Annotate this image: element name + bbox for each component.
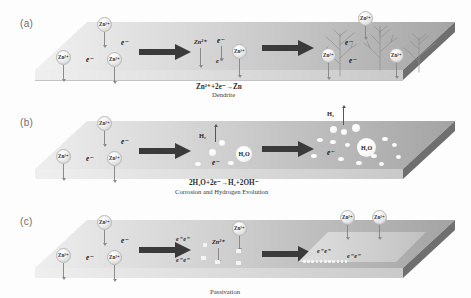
hydrogen-bubble xyxy=(209,149,216,156)
electron-label: e⁻ xyxy=(121,137,128,146)
hydrogen-bubble xyxy=(317,138,323,142)
hydrogen-bubble xyxy=(195,162,201,166)
panel-a-label: (a) xyxy=(20,18,33,29)
ion-direction-arrow xyxy=(114,265,115,279)
zn-ion: Zn²⁺ xyxy=(358,11,373,26)
zn-ion: Zn²⁺ xyxy=(56,50,71,65)
zn-ion-label: Zn²⁺ xyxy=(212,238,224,245)
electron-label: e⁻ e⁻ xyxy=(317,247,330,254)
process-arrow xyxy=(262,40,314,60)
ion-direction-arrow xyxy=(347,225,348,237)
ion-direction-arrow xyxy=(104,230,105,243)
zn-ion: Zn²⁺ xyxy=(232,221,247,236)
hydrogen-bubble xyxy=(396,155,401,159)
ion-direction-arrow xyxy=(328,63,329,77)
zn-ion: Zn²⁺ xyxy=(232,44,247,59)
panel-b-equation: 2H₂O+2e⁻→H₂+2OH⁻ xyxy=(189,178,259,187)
figure-canvas: (a) Zn²⁺ Zn²⁺ xyxy=(0,0,471,298)
dendrite-deposit xyxy=(318,8,443,84)
electron-label: e⁻ xyxy=(86,253,93,262)
zn-ion: Zn²⁺ xyxy=(372,210,387,225)
panel-c-label: (c) xyxy=(20,216,33,227)
ion-direction-arrow xyxy=(396,63,397,76)
ion-direction-arrow xyxy=(239,236,240,248)
hydrogen-bubble xyxy=(379,162,384,166)
electron-label: e⁻ xyxy=(327,148,334,157)
zn-ion: Zn²⁺ xyxy=(97,116,112,131)
panel-b: (b) Zn²⁺ Zn²⁺ Zn²⁺ xyxy=(0,99,471,198)
zn-ion: Zn²⁺ xyxy=(389,48,404,63)
process-arrow xyxy=(139,44,191,64)
electron-label: e⁻ xyxy=(86,154,93,163)
ion-direction-arrow xyxy=(239,59,240,75)
electron-label: e⁻ xyxy=(217,36,224,45)
zn-ion: Zn²⁺ xyxy=(97,215,112,230)
gas-escape-arrow xyxy=(215,127,216,142)
passivation-particle xyxy=(203,243,207,247)
zn-ion: Zn²⁺ xyxy=(107,250,122,265)
electron-label: e⁻ e⁻ xyxy=(176,256,189,263)
hydrogen-bubble xyxy=(338,157,344,161)
passivation-dot-row xyxy=(303,260,347,263)
hydrogen-bubble xyxy=(371,154,377,158)
hydrogen-bubble xyxy=(356,161,362,165)
ion-direction-arrow xyxy=(221,46,222,58)
electron-label: e⁻ xyxy=(349,56,356,65)
panel-c: (c) Zn²⁺ Zn²⁺ Zn²⁺ xyxy=(0,198,471,298)
process-arrow xyxy=(139,143,191,163)
hydrogen-bubble xyxy=(392,143,397,147)
ion-direction-arrow xyxy=(63,164,64,178)
ion-direction-arrow xyxy=(63,263,64,277)
zn-ion: Zn²⁺ xyxy=(97,17,112,32)
ion-direction-arrow xyxy=(200,48,201,65)
hydrogen-bubble xyxy=(330,140,336,144)
zn-ion-label: Zn²⁺ xyxy=(194,38,206,45)
hydrogen-bubble xyxy=(228,161,234,165)
zn-ion: Zn²⁺ xyxy=(107,151,122,166)
electron-label: e⁻ e⁻ xyxy=(176,235,189,242)
zn-ion: Zn²⁺ xyxy=(340,210,355,225)
hydrogen-gas-label: H₂ xyxy=(327,110,334,117)
ion-direction-arrow xyxy=(114,67,115,81)
ion-direction-arrow xyxy=(63,65,64,79)
ion-direction-arrow xyxy=(104,131,105,144)
ion-direction-arrow xyxy=(365,26,366,37)
panel-c-caption: Passivation xyxy=(210,288,240,295)
gas-escape-arrow xyxy=(343,108,344,125)
zn-ion: Zn²⁺ xyxy=(56,149,71,164)
process-arrow xyxy=(262,141,314,161)
hydrogen-bubble xyxy=(330,126,337,133)
ion-direction-arrow xyxy=(379,225,380,237)
hydrogen-bubble xyxy=(382,137,388,141)
electron-label: e⁻ xyxy=(121,38,128,47)
zn-ion: Zn²⁺ xyxy=(56,248,71,263)
panel-b-label: (b) xyxy=(20,117,33,128)
panel-a-caption: Dendrite xyxy=(212,91,235,98)
panel-a-equation: Zn²⁺+2e⁻→Zn xyxy=(196,82,242,91)
hydrogen-bubble xyxy=(219,140,225,146)
ion-direction-arrow xyxy=(114,166,115,180)
electron-label: e⁻ xyxy=(212,158,219,167)
electron-label: e⁻ xyxy=(121,236,128,245)
hydrogen-bubble xyxy=(311,154,317,158)
passivation-particle xyxy=(201,256,206,260)
hydrogen-gas-label: H₂ xyxy=(199,132,206,139)
electron-label: e⁻ e⁻ xyxy=(347,252,360,259)
panel-a: (a) Zn²⁺ Zn²⁺ xyxy=(0,0,471,99)
water-molecule: H₂O xyxy=(236,146,252,162)
hydrogen-bubble xyxy=(352,124,360,132)
zn-ion: Zn²⁺ xyxy=(107,52,122,67)
passivation-particle xyxy=(215,260,220,264)
panel-b-caption: Corrosion and Hydrogen Evolution xyxy=(175,188,268,195)
electron-label: e⁻ xyxy=(345,38,352,47)
passivation-particle xyxy=(236,261,241,265)
hydrogen-bubble xyxy=(341,129,347,135)
ion-direction-arrow xyxy=(218,248,219,260)
zn-ion: Zn²⁺ xyxy=(321,48,336,63)
hydrogen-bubble xyxy=(345,143,350,147)
passivation-particle xyxy=(236,249,241,253)
ion-direction-arrow xyxy=(104,32,105,45)
electron-label: e⁻ xyxy=(86,55,93,64)
